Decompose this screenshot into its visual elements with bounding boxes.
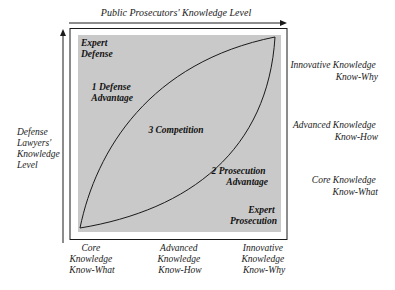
expert-defense-label: Expert Defense — [80, 38, 113, 59]
bottom-level-innovative: Innovative Knowledge Know-Why — [240, 243, 286, 275]
right-level-innovative: Innovative Knowledge Know-Why — [289, 60, 378, 82]
bottom-level-core: Core Knowledge Know-What — [68, 243, 115, 275]
defense-advantage-label: 1 Defense Advantage — [90, 82, 133, 103]
competition-label: 3 Competition — [147, 125, 203, 135]
knowledge-competition-diagram: Public Prosecutors' Knowledge Level Expe… — [0, 0, 395, 290]
x-axis-arrow — [69, 20, 287, 26]
right-level-advanced: Advanced Knowledge Know-How — [292, 120, 379, 142]
bottom-level-advanced: Advanced Knowledge Know-How — [156, 243, 202, 275]
x-axis-title: Public Prosecutors' Knowledge Level — [100, 7, 252, 18]
y-axis-arrow — [60, 29, 66, 243]
y-axis-title: Defense Lawyers' Knowledge Level — [16, 127, 62, 170]
right-level-core: Core Knowledge Know-What — [312, 175, 379, 197]
